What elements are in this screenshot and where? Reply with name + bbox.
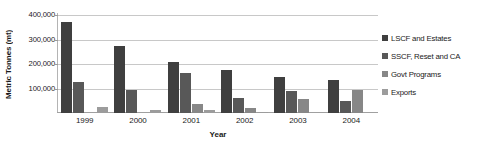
legend-swatch-icon	[382, 53, 388, 59]
bar	[298, 99, 309, 113]
x-axis-tick-labels: 199920002001200220032004	[58, 116, 378, 125]
bar	[126, 90, 137, 113]
x-axis-tick-label: 2003	[271, 116, 324, 125]
y-axis-tick-label: 200,000	[29, 60, 55, 68]
legend-item[interactable]: LSCF and Estates	[382, 29, 478, 47]
legend-swatch-icon	[382, 71, 388, 77]
legend-label: Govt Programs	[391, 70, 441, 79]
bar	[328, 80, 339, 113]
legend-item[interactable]: SSCF, Reset and CA	[382, 47, 478, 65]
bar	[340, 101, 351, 113]
legend-swatch-icon	[382, 89, 388, 95]
bar	[352, 90, 363, 113]
plot-area	[58, 15, 378, 113]
bar-group	[218, 15, 271, 113]
y-axis-tick-mark	[54, 15, 58, 16]
bar	[73, 82, 84, 113]
bar	[180, 73, 191, 113]
bar	[61, 22, 72, 113]
legend-item[interactable]: Exports	[382, 83, 478, 101]
bar	[274, 77, 285, 113]
bar	[233, 98, 244, 113]
bar-group	[165, 15, 218, 113]
bar-group	[271, 15, 324, 113]
bar	[221, 70, 232, 113]
x-axis-tick-label: 2002	[218, 116, 271, 125]
bar	[286, 91, 297, 113]
y-axis-tick-labels: 400,000300,000200,000100,000	[15, 11, 57, 113]
x-axis-tick-label: 2001	[165, 116, 218, 125]
bar-group	[58, 15, 111, 113]
y-axis-title: Metric Tonnes (mt)	[1, 14, 15, 114]
y-axis-tick-label: 100,000	[29, 85, 55, 93]
x-axis-title: Year	[58, 130, 378, 139]
x-axis-tick-label: 2000	[111, 116, 164, 125]
x-axis-tick-label: 1999	[58, 116, 111, 125]
y-axis-tick-label: 400,000	[29, 11, 55, 19]
legend-item[interactable]: Govt Programs	[382, 65, 478, 83]
bar-chart-figure: Metric Tonnes (mt) 400,000300,000200,000…	[0, 0, 479, 154]
chart-legend: LSCF and EstatesSSCF, Reset and CAGovt P…	[382, 29, 478, 101]
bar-group	[325, 15, 378, 113]
y-axis-tick-label: 300,000	[29, 36, 55, 44]
y-axis-tick-mark	[54, 64, 58, 65]
bar	[97, 107, 108, 113]
bar	[245, 108, 256, 113]
legend-label: SSCF, Reset and CA	[391, 52, 460, 61]
legend-label: LSCF and Estates	[391, 34, 451, 43]
bar	[257, 112, 268, 113]
legend-label: Exports	[391, 88, 416, 97]
legend-swatch-icon	[382, 35, 388, 41]
bar	[204, 110, 215, 113]
x-axis-tick-label: 2004	[325, 116, 378, 125]
bars-layer	[58, 15, 378, 113]
bar	[192, 104, 203, 113]
bar	[168, 62, 179, 113]
y-axis-tick-mark	[54, 89, 58, 90]
y-axis-tick-mark	[54, 40, 58, 41]
bar	[114, 46, 125, 113]
bar-group	[111, 15, 164, 113]
bar	[150, 110, 161, 113]
